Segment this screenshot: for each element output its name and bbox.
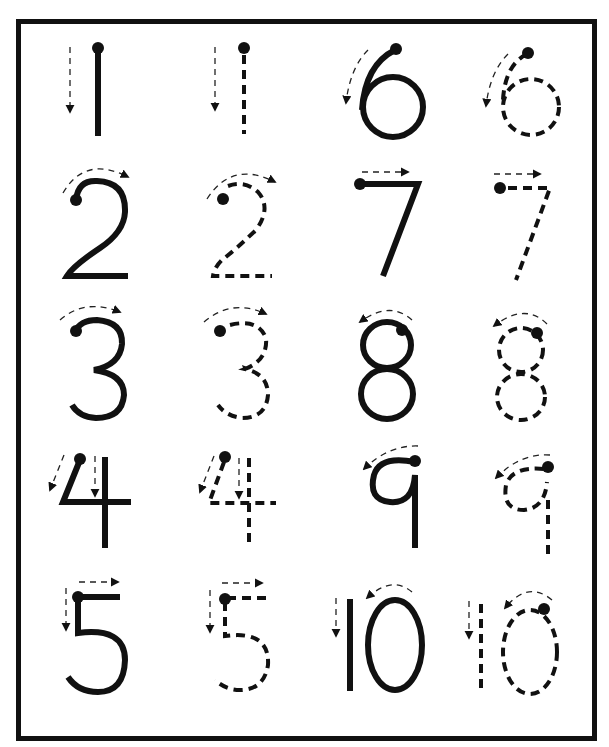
start-dot-icon — [219, 451, 231, 463]
start-dot-icon — [538, 603, 550, 615]
start-dot-icon — [70, 194, 82, 206]
start-dot-icon — [219, 593, 231, 605]
cell-2-solid: 2 — [63, 169, 128, 276]
cell-9-dashed: 9 — [496, 455, 554, 554]
cell-7-solid: 7 — [354, 172, 418, 276]
cell-5-dashed: 5 — [210, 583, 268, 690]
stroke-direction-arrow-icon — [494, 313, 547, 326]
cell-8-dashed: 8 — [494, 313, 547, 420]
cell-4-solid: 4 — [50, 453, 131, 548]
start-dot-icon — [238, 42, 250, 54]
cell-6-dashed: 6 — [486, 47, 559, 135]
stroke-direction-arrow-icon — [200, 456, 214, 492]
cell-5-solid: 5 — [66, 582, 125, 692]
start-dot-icon — [522, 47, 534, 59]
start-dot-icon — [92, 42, 104, 54]
start-dot-icon — [542, 461, 554, 473]
start-dot-icon — [390, 43, 402, 55]
digit-stroke — [209, 462, 276, 503]
cell-1-dashed: 1 — [215, 42, 250, 134]
digit-stroke — [363, 77, 423, 137]
stroke-direction-arrow-icon — [364, 446, 418, 469]
stroke-direction-arrow-icon — [204, 308, 266, 322]
digit-stroke — [503, 79, 559, 135]
start-dot-icon — [214, 325, 226, 337]
cell-9-solid: 9 — [364, 446, 421, 548]
cell-3-solid: 3 — [60, 307, 124, 418]
cell-4-dashed: 4 — [200, 451, 276, 546]
cell-2-dashed: 2 — [207, 174, 275, 276]
start-dot-icon — [494, 182, 506, 194]
tracing-worksheet: Number tracing practice 1-10 1 1 6 — [0, 0, 609, 747]
digit-stroke — [68, 597, 125, 692]
digit-stroke — [373, 460, 415, 548]
digit-stroke — [360, 184, 418, 276]
start-dot-icon — [354, 178, 366, 190]
start-dot-icon — [409, 455, 421, 467]
digit-stroke — [505, 469, 547, 510]
stroke-direction-arrow-icon — [496, 455, 550, 478]
digit-stroke — [215, 598, 268, 690]
digit-stroke — [368, 600, 422, 690]
digit-stroke — [503, 610, 557, 694]
digits-canvas: 1 1 6 6 2 — [0, 0, 609, 747]
digit-stroke — [218, 323, 268, 418]
cell-6-solid: 6 — [346, 43, 423, 137]
cell-1-solid: 1 — [70, 42, 104, 136]
cell-8-solid: 8 — [360, 310, 413, 419]
digit-stroke — [508, 188, 550, 280]
start-dot-icon — [70, 325, 82, 337]
digit-stroke — [503, 54, 527, 100]
start-dot-icon — [531, 327, 543, 339]
cell-10-solid: 10 — [336, 585, 422, 691]
start-dot-icon — [74, 453, 86, 465]
start-dot-icon — [72, 591, 84, 603]
cell-3-dashed: 3 — [204, 308, 268, 418]
cell-7-dashed: 7 — [494, 174, 550, 280]
digit-stroke — [497, 374, 545, 420]
start-dot-icon — [217, 193, 229, 205]
digit-stroke — [361, 369, 413, 419]
stroke-direction-arrow-icon — [367, 585, 412, 598]
digit-stroke — [63, 460, 131, 502]
start-dot-icon — [396, 324, 408, 336]
stroke-direction-arrow-icon — [207, 174, 275, 199]
stroke-direction-arrow-icon — [50, 455, 64, 490]
cell-10-dashed: 10 — [469, 592, 557, 694]
